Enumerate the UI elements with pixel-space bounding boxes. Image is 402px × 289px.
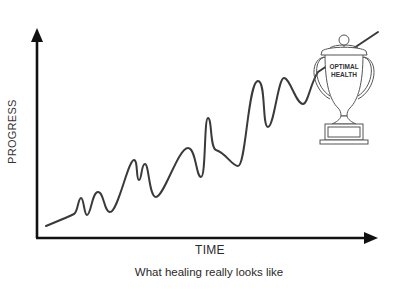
trophy-label-line2: HEALTH: [322, 71, 366, 79]
trophy-label: OPTIMAL HEALTH: [322, 63, 366, 79]
trophy-icon: [314, 35, 374, 144]
arrow-right-icon: [364, 232, 378, 244]
x-axis-label: TIME: [180, 243, 240, 257]
y-axis-label: PROGRESS: [6, 104, 20, 164]
trophy-label-line1: OPTIMAL: [322, 63, 366, 71]
y-axis: [31, 28, 43, 238]
arrow-up-icon: [31, 28, 43, 42]
diagram-caption: What healing really looks like: [100, 266, 318, 278]
